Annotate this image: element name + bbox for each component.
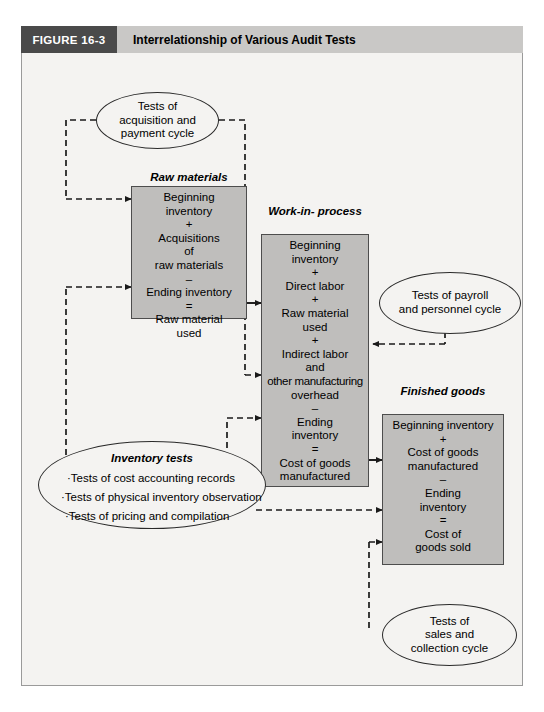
work-in-process-box: Beginning inventory + Direct labor + Raw…: [261, 234, 369, 487]
work-in-process-line: Beginning: [262, 239, 368, 253]
finished-goods-caption-line: Finished: [401, 385, 448, 397]
work-in-process-line: Indirect labor: [262, 348, 368, 362]
raw-materials-line: of: [132, 245, 246, 259]
finished-goods-box: Beginning inventory + Cost of goods manu…: [382, 414, 504, 565]
work-in-process-line: Ending: [262, 416, 368, 430]
ellipse-acquisition-line: Tests of: [119, 100, 196, 114]
ellipse-acquisition-text: Tests of acquisition and payment cycle: [119, 100, 196, 141]
work-in-process-line: Raw material: [262, 307, 368, 321]
raw-materials-caption: Raw materials: [131, 171, 247, 184]
work-in-process-line: +: [262, 334, 368, 348]
ellipse-inventory-bullet: ·Tests of cost accounting records: [39, 469, 265, 488]
work-in-process-line: Cost of goods: [262, 457, 368, 471]
ellipse-payroll-line: Tests of payroll: [399, 289, 501, 303]
work-in-process-line: overhead: [262, 389, 368, 403]
finished-goods-line: goods sold: [383, 541, 503, 555]
ellipse-acquisition-line: payment cycle: [119, 127, 196, 141]
work-in-process-caption-line: process: [318, 205, 362, 217]
ellipse-payroll-line: and personnel cycle: [399, 303, 501, 317]
finished-goods-line: manufactured: [383, 460, 503, 474]
work-in-process-line: and: [262, 361, 368, 375]
work-in-process-caption-line: Work-in-: [268, 205, 314, 217]
work-in-process-line: inventory: [262, 429, 368, 443]
work-in-process-line: –: [262, 402, 368, 416]
ellipse-payroll-text: Tests of payroll and personnel cycle: [399, 289, 501, 316]
work-in-process-line: +: [262, 266, 368, 280]
work-in-process-line: inventory: [262, 253, 368, 267]
finished-goods-caption: Finished goods: [382, 385, 504, 398]
finished-goods-line: Cost of: [383, 528, 503, 542]
work-in-process-caption: Work-in- process: [261, 205, 369, 218]
finished-goods-line: Beginning inventory: [383, 419, 503, 433]
figure-title: Interrelationship of Various Audit Tests: [133, 26, 356, 53]
finished-goods-line: Cost of goods: [383, 446, 503, 460]
ellipse-sales-tests: Tests of sales and collection cycle: [382, 604, 517, 666]
ellipse-inventory-bullet: ·Tests of physical inventory observation: [39, 488, 265, 507]
ellipse-inventory-tests: Inventory tests ·Tests of cost accountin…: [38, 441, 266, 529]
figure-page: FIGURE 16-3 Interrelationship of Various…: [0, 0, 544, 712]
ellipse-inventory-bullet: ·Tests of pricing and compilation: [39, 507, 265, 526]
finished-goods-line: Ending: [383, 487, 503, 501]
raw-materials-line: used: [132, 327, 246, 341]
raw-materials-line: Ending inventory: [132, 286, 246, 300]
finished-goods-line: =: [383, 514, 503, 528]
raw-materials-line: +: [132, 218, 246, 232]
raw-materials-line: Raw material: [132, 313, 246, 327]
figure-number-badge: FIGURE 16-3: [21, 26, 117, 53]
ellipse-acquisition-line: acquisition and: [119, 114, 196, 128]
work-in-process-line: other manufacturing: [262, 375, 368, 389]
raw-materials-caption-text: Raw materials: [150, 171, 227, 183]
raw-materials-box: Beginning inventory + Acquisitions of ra…: [131, 186, 247, 319]
finished-goods-line: inventory: [383, 501, 503, 515]
raw-materials-line: inventory: [132, 205, 246, 219]
ellipse-sales-text: Tests of sales and collection cycle: [411, 615, 488, 656]
ellipse-payroll-tests: Tests of payroll and personnel cycle: [379, 272, 521, 334]
figure-header-bar: FIGURE 16-3 Interrelationship of Various…: [21, 26, 523, 53]
raw-materials-line: Beginning: [132, 191, 246, 205]
work-in-process-line: Direct labor: [262, 280, 368, 294]
ellipse-inventory-title: Inventory tests: [39, 452, 265, 465]
raw-materials-line: raw materials: [132, 259, 246, 273]
ellipse-acquisition-tests: Tests of acquisition and payment cycle: [96, 92, 219, 149]
raw-materials-line: Acquisitions: [132, 232, 246, 246]
ellipse-sales-line: collection cycle: [411, 642, 488, 656]
ellipse-sales-line: sales and: [411, 628, 488, 642]
raw-materials-line: =: [132, 300, 246, 314]
work-in-process-line: =: [262, 443, 368, 457]
finished-goods-caption-line: goods: [451, 385, 486, 397]
work-in-process-line: manufactured: [262, 470, 368, 484]
finished-goods-line: –: [383, 473, 503, 487]
work-in-process-line: +: [262, 293, 368, 307]
raw-materials-line: –: [132, 273, 246, 287]
work-in-process-line: used: [262, 321, 368, 335]
ellipse-sales-line: Tests of: [411, 615, 488, 629]
finished-goods-line: +: [383, 433, 503, 447]
